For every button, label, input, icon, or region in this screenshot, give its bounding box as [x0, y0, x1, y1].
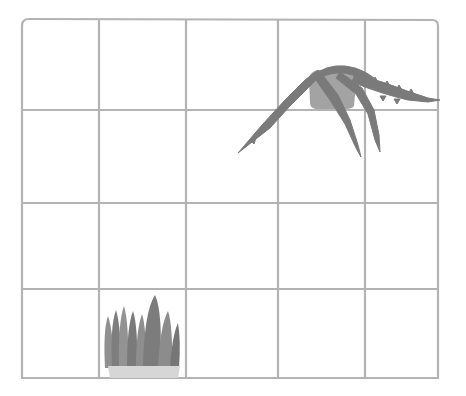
cell-r0-c3[interactable] — [279, 21, 364, 109]
cell-r1-c4[interactable] — [366, 111, 437, 202]
cell-r2-c1[interactable] — [100, 204, 185, 288]
cell-r0-c4[interactable] — [366, 21, 437, 109]
cell-r3-c0[interactable] — [23, 290, 98, 377]
cell-r2-c2[interactable] — [187, 204, 277, 288]
cell-r1-c0[interactable] — [23, 111, 98, 202]
cell-r1-c2[interactable] — [187, 111, 277, 202]
cell-r3-c2[interactable] — [187, 290, 277, 377]
game-board — [0, 0, 466, 396]
cell-r0-c1[interactable] — [100, 21, 185, 109]
cell-r3-c1[interactable] — [100, 290, 185, 377]
cell-r1-c1[interactable] — [100, 111, 185, 202]
cell-r3-c4[interactable] — [366, 290, 437, 377]
cell-r2-c4[interactable] — [366, 204, 437, 288]
cell-r2-c3[interactable] — [279, 204, 364, 288]
cell-r2-c0[interactable] — [23, 204, 98, 288]
cell-r3-c3[interactable] — [279, 290, 364, 377]
cell-r0-c0[interactable] — [23, 21, 98, 109]
cell-r0-c2[interactable] — [187, 21, 277, 109]
cell-r1-c3[interactable] — [279, 111, 364, 202]
